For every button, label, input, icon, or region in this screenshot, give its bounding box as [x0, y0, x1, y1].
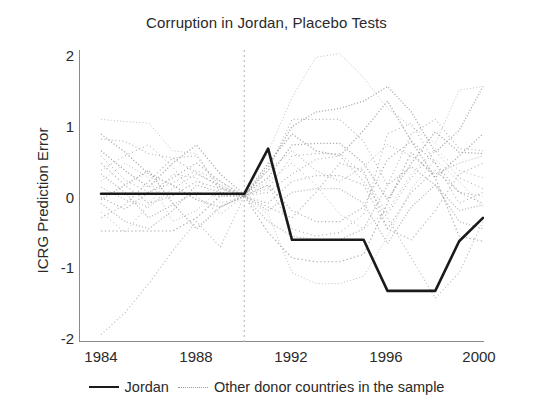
- x-tick-1992: 1992: [261, 349, 321, 364]
- x-tick-2000: 2000: [449, 349, 509, 364]
- y-tick-neg1: -1: [44, 260, 74, 275]
- x-axis-tick-labels: 1984 1988 1992 1996 2000: [0, 349, 533, 369]
- y-tick-neg2: -2: [44, 331, 74, 346]
- legend-label-jordan: Jordan: [125, 379, 169, 395]
- x-tick-1984: 1984: [71, 349, 131, 364]
- legend-item-jordan: Jordan: [89, 379, 169, 395]
- chart-figure: Corruption in Jordan, Placebo Tests ICRG…: [0, 0, 533, 418]
- x-tick-1996: 1996: [356, 349, 416, 364]
- plot-area: [79, 50, 484, 342]
- dotted-line-icon: [178, 387, 208, 388]
- chart-title: Corruption in Jordan, Placebo Tests: [0, 14, 533, 31]
- x-tick-1988: 1988: [166, 349, 226, 364]
- solid-line-icon: [89, 386, 119, 388]
- y-tick-0: 0: [44, 190, 74, 205]
- plot-canvas: [79, 50, 484, 342]
- legend-item-others: Other donor countries in the sample: [178, 379, 445, 395]
- legend-label-others: Other donor countries in the sample: [214, 379, 445, 395]
- y-tick-2: 2: [44, 48, 74, 63]
- chart-legend: Jordan Other donor countries in the samp…: [0, 379, 533, 395]
- y-tick-1: 1: [44, 119, 74, 134]
